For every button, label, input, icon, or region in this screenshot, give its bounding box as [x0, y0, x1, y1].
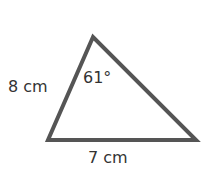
left-side-label: 8 cm: [8, 77, 48, 96]
triangle-diagram: 8 cm 61° 7 cm: [0, 0, 204, 174]
triangle: [48, 37, 196, 140]
base-label: 7 cm: [88, 148, 128, 167]
apex-angle-label: 61°: [83, 68, 111, 87]
